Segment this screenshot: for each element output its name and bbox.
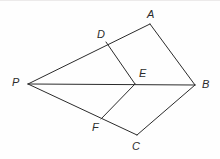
geometric-figure: P A B C D E F	[0, 0, 220, 159]
figure-canvas	[0, 0, 220, 159]
vertex-label-A: A	[147, 9, 154, 20]
segment-P-A	[28, 24, 150, 84]
vertex-label-C: C	[132, 141, 140, 152]
segment-C-B	[137, 85, 195, 135]
segment-P-C	[28, 84, 137, 135]
segment-P-B	[28, 84, 195, 85]
vertex-label-D: D	[97, 29, 105, 40]
segment-A-B	[150, 24, 195, 85]
segment-D-E	[106, 42, 135, 84]
vertex-label-B: B	[202, 79, 209, 90]
vertex-label-E: E	[139, 68, 146, 79]
vertex-label-F: F	[92, 122, 99, 133]
vertex-label-P: P	[12, 77, 19, 88]
segment-F-E	[101, 84, 135, 119]
